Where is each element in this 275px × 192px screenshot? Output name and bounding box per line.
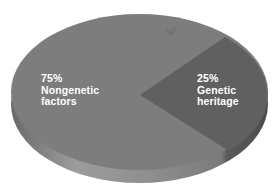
label-genetic-heritage: 25% Genetic heritage <box>197 73 239 108</box>
label-nongenetic-line2: factors <box>41 96 99 108</box>
label-nongenetic-percent: 75% <box>41 73 99 85</box>
label-nongenetic-factors: 75% Nongenetic factors <box>41 73 99 108</box>
label-genetic-line2: heritage <box>197 96 239 108</box>
label-genetic-percent: 25% <box>197 73 239 85</box>
